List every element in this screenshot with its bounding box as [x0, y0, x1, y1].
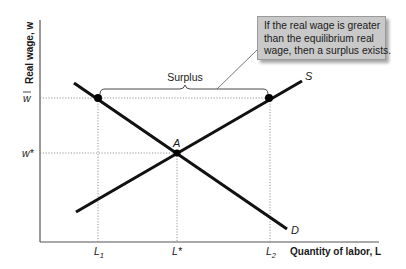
supply-label: S [305, 70, 313, 82]
surplus-brace [100, 85, 268, 94]
point-l2-wbar [265, 94, 273, 102]
point-l1-wbar [94, 94, 102, 102]
x-tick-lstar: L* [172, 245, 183, 257]
surplus-label: Surplus [167, 71, 203, 83]
callout-line-2: than the equilibrium real [264, 33, 381, 46]
equilibrium-point [174, 150, 181, 157]
y-axis-title: Real wage, w [24, 22, 35, 84]
surplus-callout: If the real wage is greater than the equ… [257, 16, 386, 60]
y-tick-wbar: w [23, 92, 32, 104]
y-tick-wstar: w* [22, 147, 35, 159]
callout-leader [217, 50, 257, 89]
demand-curve [74, 83, 287, 229]
callout-line-3: wage, then a surplus exists. [264, 45, 381, 58]
x-tick-l2: L2 [266, 245, 277, 260]
equilibrium-label: A [172, 137, 180, 149]
demand-label: D [291, 224, 299, 236]
x-axis-title: Quantity of labor, L [290, 246, 381, 257]
callout-line-1: If the real wage is greater [264, 20, 381, 33]
x-tick-l1: L1 [94, 245, 104, 260]
